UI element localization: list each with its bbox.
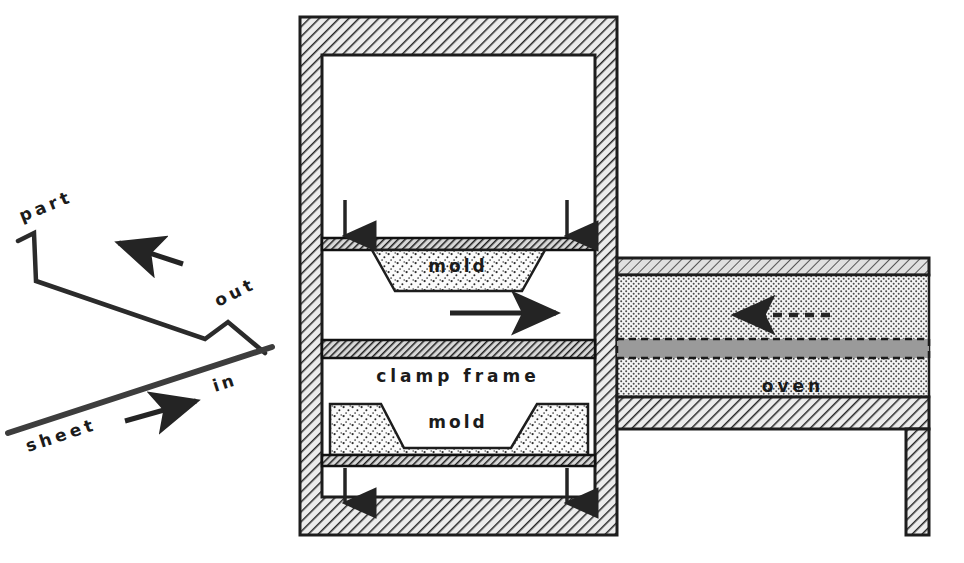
oven-floor (617, 397, 929, 429)
label-oven: oven (762, 376, 824, 396)
oven-sheet-band (617, 339, 929, 358)
lower-platen-bar (322, 455, 595, 466)
upper-platen-bar (322, 238, 595, 250)
diagram-canvas: part out sheet in mold clamp frame (0, 0, 964, 563)
label-upper-mold: mold (428, 256, 487, 276)
label-lower-mold: mold (428, 412, 487, 432)
label-clamp-frame: clamp frame (376, 366, 540, 386)
clamp-frame-bar (322, 340, 595, 358)
oven-support-leg (906, 429, 929, 535)
oven-roof (617, 258, 929, 275)
